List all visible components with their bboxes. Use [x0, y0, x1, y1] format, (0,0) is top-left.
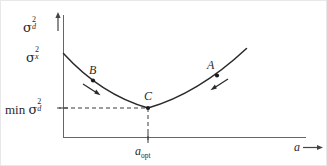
- point-b-arrow-icon: [83, 84, 101, 95]
- figure-canvas: [1, 1, 327, 166]
- y-axis-sigma-indices: 2d: [32, 19, 40, 32]
- point-b-label: B: [89, 64, 96, 76]
- a-opt-subscript: opt: [141, 151, 151, 160]
- error-curve: [64, 49, 247, 109]
- min-sigma-indices: 2d: [37, 101, 45, 114]
- y-axis-sigma-subscript: d: [32, 23, 36, 31]
- mse-curve-figure: σ2d σ2x min σ2d aopt a A B C: [0, 0, 327, 166]
- sigma-x-glyph: σ: [26, 50, 35, 65]
- y-axis-up-arrow-icon: [55, 12, 60, 31]
- y-tick-label-min-sigma-d: min σ2d: [5, 101, 45, 116]
- y-axis-label: σ2d: [23, 19, 40, 34]
- y-tick-label-sigma-x: σ2x: [26, 49, 43, 64]
- y-axis-sigma-glyph: σ: [23, 20, 32, 35]
- point-c-marker: [146, 106, 150, 110]
- min-sigma-subscript: d: [37, 105, 41, 113]
- sigma-x-indices: 2x: [35, 49, 43, 62]
- point-b-marker: [91, 78, 95, 82]
- point-a-arrow-icon: [211, 79, 229, 90]
- min-prefix-text: min: [5, 102, 28, 117]
- x-axis-right-arrow-icon: [303, 145, 323, 150]
- point-a-label: A: [207, 59, 214, 71]
- x-tick-label-a-opt: aopt: [135, 145, 151, 157]
- sigma-x-subscript: x: [35, 53, 39, 61]
- point-c-label: C: [144, 90, 152, 102]
- min-sigma-glyph: σ: [28, 102, 37, 117]
- point-a-marker: [215, 73, 219, 77]
- x-axis-label: a: [294, 141, 300, 153]
